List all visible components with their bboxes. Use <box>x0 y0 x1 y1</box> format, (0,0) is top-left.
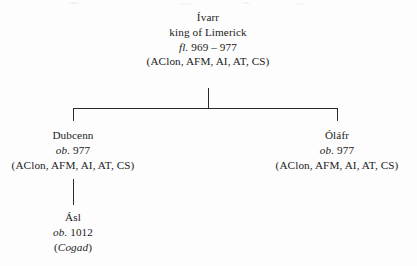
person-olafr-dates-abbr: ob. <box>320 144 334 156</box>
person-olafr-dates-value: 977 <box>337 144 354 156</box>
person-ivarr-dates-abbr: fl. <box>179 41 188 53</box>
person-ivarr-title: king of Limerick <box>147 25 270 40</box>
connector-ivarr-stem <box>208 88 209 109</box>
person-dubcenn-sources: (AClon, AFM, AI, AT, CS) <box>12 158 135 173</box>
person-asl-dates-value: 1012 <box>70 226 93 238</box>
person-dubcenn-dates-value: 977 <box>73 144 90 156</box>
person-ivarr-name: Ívarr <box>147 10 270 25</box>
person-ivarr-dates-value: 969 – 977 <box>191 41 237 53</box>
person-olafr-dates: ob. 977 <box>276 143 399 158</box>
person-ivarr-sources: (AClon, AFM, AI, AT, CS) <box>147 54 270 69</box>
person-asl-sources-close: ) <box>88 241 92 253</box>
person-dubcenn-dates-abbr: ob. <box>56 144 70 156</box>
person-dubcenn-name: Dubcenn <box>12 128 135 143</box>
connector-sibling-bar <box>73 108 338 109</box>
person-asl-sources: (Cogad) <box>53 240 93 255</box>
person-asl-sources-title: Cogad <box>58 241 88 253</box>
person-asl-name: Ásl <box>53 210 93 225</box>
person-olafr-sources: (AClon, AFM, AI, AT, CS) <box>276 158 399 173</box>
connector-dubcenn-to-asl <box>73 179 74 205</box>
person-ivarr: Ívarr king of Limerick fl. 969 – 977 (AC… <box>147 10 270 69</box>
person-ivarr-dates: fl. 969 – 977 <box>147 40 270 55</box>
person-dubcenn-dates: ob. 977 <box>12 143 135 158</box>
person-asl-dates-abbr: ob. <box>53 226 67 238</box>
connector-drop-dubcenn <box>73 108 74 121</box>
person-asl: Ásl ob. 1012 (Cogad) <box>53 210 93 254</box>
connector-drop-olafr <box>337 108 338 121</box>
person-olafr-name: Óláfr <box>276 128 399 143</box>
scan-noise-artifact <box>0 0 417 7</box>
family-tree-figure: Ívarr king of Limerick fl. 969 – 977 (AC… <box>0 0 417 266</box>
person-dubcenn: Dubcenn ob. 977 (AClon, AFM, AI, AT, CS) <box>12 128 135 172</box>
person-asl-dates: ob. 1012 <box>53 225 93 240</box>
person-olafr: Óláfr ob. 977 (AClon, AFM, AI, AT, CS) <box>276 128 399 172</box>
